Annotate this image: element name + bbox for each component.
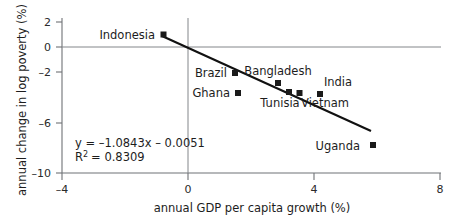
x-axis-ticks [62, 173, 440, 180]
point-label-brazil: Brazil [195, 66, 227, 80]
x-tick-label-0: 0 [185, 183, 192, 196]
y-axis-ticks [56, 22, 62, 173]
x-tick-label-8: 8 [437, 183, 444, 196]
point-label-uganda: Uganda [316, 139, 360, 153]
y-tick-label-minus2: –2 [39, 66, 52, 79]
r-squared-prefix: R [75, 150, 83, 164]
data-point-brazil [232, 70, 238, 76]
y-tick-label-minus6: –6 [39, 117, 52, 130]
chart-figure: 2 0 –2 –6 –10 –4 0 4 8 annual GDP per ca… [0, 0, 458, 221]
r-squared-superscript: 2 [83, 150, 88, 159]
point-label-vietnam: Vietnam [301, 96, 349, 110]
y-tick-label-2: 2 [44, 16, 51, 29]
data-point-uganda [370, 142, 376, 148]
r-squared-value: = 0.8309 [91, 150, 145, 164]
data-point-ghana [235, 90, 241, 96]
point-label-ghana: Ghana [192, 86, 230, 100]
data-point-tunisia [286, 89, 292, 95]
data-point-indonesia [161, 32, 167, 38]
x-axis-title: annual GDP per capita growth (%) [154, 201, 351, 215]
scatter-plot-canvas: 2 0 –2 –6 –10 –4 0 4 8 annual GDP per ca… [0, 0, 458, 221]
regression-equation-text: y = –1.0843x – 0.0051 [75, 136, 205, 150]
y-tick-label-minus10: –10 [32, 167, 52, 180]
point-label-indonesia: Indonesia [99, 28, 155, 42]
y-tick-label-0: 0 [44, 41, 51, 54]
point-label-india: India [324, 75, 352, 89]
data-point-bangladesh [275, 80, 281, 86]
r-squared-annotation: R2= 0.8309 [75, 150, 145, 164]
x-tick-label-minus4: –4 [56, 183, 69, 196]
y-axis-title: annual change in log poverty (%) [15, 4, 29, 196]
point-label-tunisia: Tunisia [259, 96, 299, 110]
point-label-bangladesh: Bangladesh [244, 64, 311, 78]
x-tick-label-4: 4 [311, 183, 318, 196]
